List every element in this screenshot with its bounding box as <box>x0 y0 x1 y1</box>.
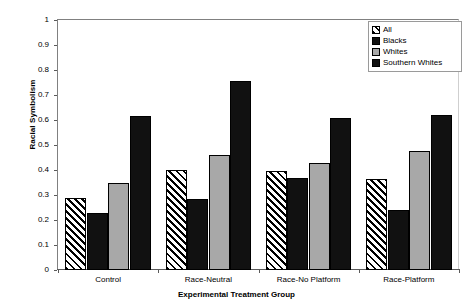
bar <box>388 210 409 270</box>
y-axis-tick: 0.2 <box>0 220 57 221</box>
bar-chart: Racial Symbolism 00.10.20.30.40.50.60.70… <box>0 0 473 307</box>
legend-item-blacks: Blacks <box>372 35 458 46</box>
y-axis-tick: 0.1 <box>0 245 57 246</box>
bar <box>409 151 430 270</box>
y-axis-tick: 0.3 <box>0 195 57 196</box>
y-axis-tick-label: 0.9 <box>38 40 49 49</box>
y-axis-tick-label: 1 <box>45 15 49 24</box>
y-axis-tick: 1 <box>0 20 57 21</box>
legend-label-whites: Whites <box>383 47 407 56</box>
bar <box>287 178 308 271</box>
y-axis-tick: 0.8 <box>0 70 57 71</box>
y-axis-tick-mark <box>54 270 57 271</box>
legend: All Blacks Whites Southern Whites <box>368 21 462 72</box>
bar <box>431 115 452 270</box>
x-axis-tick-mark <box>259 269 260 273</box>
x-axis-tick-mark <box>58 269 59 273</box>
x-axis-tick-mark <box>459 269 460 273</box>
y-axis-tick-label: 0.2 <box>38 215 49 224</box>
bar <box>266 171 287 270</box>
y-axis-tick: 0 <box>0 270 57 271</box>
y-axis-tick-label: 0.8 <box>38 65 49 74</box>
bar <box>309 163 330 271</box>
bar-group <box>158 20 258 270</box>
bar <box>65 198 86 271</box>
bar <box>209 155 230 270</box>
x-axis-tick-mark <box>359 269 360 273</box>
legend-item-all: All <box>372 24 458 35</box>
y-axis-tick-label: 0.4 <box>38 165 49 174</box>
legend-swatch-southern-whites-icon <box>372 59 380 67</box>
bar-group <box>259 20 359 270</box>
y-axis-tick-label: 0 <box>45 265 49 274</box>
bar <box>108 183 129 271</box>
legend-label-southern-whites: Southern Whites <box>383 58 442 67</box>
x-axis-title: Experimental Treatment Group <box>0 290 473 299</box>
bar <box>166 170 187 270</box>
legend-item-southern-whites: Southern Whites <box>372 57 458 68</box>
y-axis-tick-label: 0.7 <box>38 90 49 99</box>
y-axis-tick: 0.6 <box>0 120 57 121</box>
bar <box>187 199 208 270</box>
y-axis-tick-label: 0.1 <box>38 240 49 249</box>
legend-swatch-blacks-icon <box>372 37 380 45</box>
x-axis-category-label: Race-Platform <box>349 275 469 284</box>
y-axis-tick-label: 0.3 <box>38 190 49 199</box>
legend-label-blacks: Blacks <box>383 36 407 45</box>
legend-swatch-all-icon <box>372 26 380 34</box>
bar-group <box>58 20 158 270</box>
bar <box>130 116 151 270</box>
legend-swatch-whites-icon <box>372 48 380 56</box>
legend-label-all: All <box>383 25 392 34</box>
y-axis-tick-label: 0.5 <box>38 140 49 149</box>
y-axis-tick: 0.9 <box>0 45 57 46</box>
bar <box>230 81 251 270</box>
y-axis-tick: 0.7 <box>0 95 57 96</box>
y-axis-tick: 0.4 <box>0 170 57 171</box>
legend-item-whites: Whites <box>372 46 458 57</box>
bar <box>366 179 387 270</box>
bar <box>87 213 108 271</box>
y-axis-tick-label: 0.6 <box>38 115 49 124</box>
bar <box>330 118 351 271</box>
y-axis-tick: 0.5 <box>0 145 57 146</box>
x-axis-tick-mark <box>158 269 159 273</box>
